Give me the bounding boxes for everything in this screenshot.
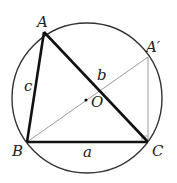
label-center-o: O — [91, 95, 103, 110]
label-a-prime: A′ — [146, 40, 160, 55]
label-a-vertex: A — [37, 15, 48, 30]
label-b-vertex: B — [12, 144, 23, 159]
center-point — [84, 98, 87, 101]
side-b — [44, 32, 148, 142]
label-side-a: a — [83, 145, 92, 160]
diagram: A B C A′ O a b c — [0, 0, 177, 183]
label-side-c: c — [24, 79, 32, 94]
label-c-vertex: C — [152, 144, 163, 159]
label-side-b: b — [97, 68, 107, 83]
